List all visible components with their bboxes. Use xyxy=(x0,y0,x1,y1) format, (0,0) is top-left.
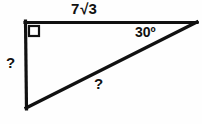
radical-symbol-icon: √3 xyxy=(79,1,98,16)
triangle-side-hypotenuse xyxy=(26,22,197,108)
side-label-top-coefficient: 7 xyxy=(71,0,79,17)
side-label-left-unknown: ? xyxy=(6,55,15,70)
angle-label-30: 30º xyxy=(135,25,156,39)
triangle-shape xyxy=(0,0,202,124)
right-angle-marker-icon xyxy=(29,26,39,36)
geometry-figure: 7√3 30º ? ? xyxy=(0,0,202,124)
side-label-hypotenuse-unknown: ? xyxy=(94,76,103,91)
side-label-top-radicand: 3 xyxy=(88,0,98,17)
triangle-side-left xyxy=(26,21,27,109)
side-label-top: 7√3 xyxy=(71,1,98,16)
